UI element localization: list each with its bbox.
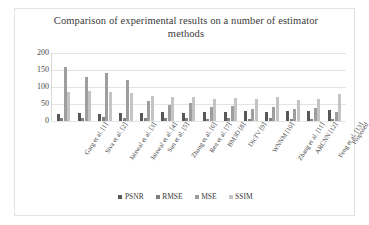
bar <box>192 97 195 121</box>
x-axis-tick-label: WNNM [10] <box>271 121 296 154</box>
bar-group <box>262 53 283 121</box>
bar <box>67 92 70 121</box>
bar-group <box>282 53 303 121</box>
bar-group <box>178 53 199 121</box>
legend-label: RMSE <box>162 193 182 201</box>
bar-group <box>136 53 157 121</box>
legend-swatch-icon <box>229 195 233 199</box>
y-axis-tick-label: 50 <box>23 100 49 108</box>
bar-group <box>157 53 178 121</box>
legend-item[interactable]: RMSE <box>156 193 183 201</box>
bar-group <box>220 53 241 121</box>
bar <box>109 92 112 121</box>
legend-item[interactable]: SSIM <box>229 193 253 201</box>
bar <box>130 93 133 121</box>
bar <box>297 100 300 121</box>
bar <box>213 99 216 121</box>
y-axis-tick-label: 150 <box>23 66 49 74</box>
bar <box>234 98 237 121</box>
bar-group <box>241 53 262 121</box>
x-axis-labels: Garg et al. [1]Siva et al. [2]Jaiswal et… <box>51 121 345 183</box>
bar-group <box>116 53 137 121</box>
legend-swatch-icon <box>118 195 122 199</box>
bar-group <box>74 53 95 121</box>
bar <box>171 97 174 121</box>
legend-swatch-icon <box>195 195 199 199</box>
legend-swatch-icon <box>156 195 160 199</box>
bar-group <box>303 53 324 121</box>
bar <box>88 91 91 121</box>
y-axis-tick-label: 100 <box>23 83 49 91</box>
legend-label: MSE <box>201 193 216 201</box>
bars-layer <box>52 53 346 121</box>
legend-label: SSIM <box>235 193 253 201</box>
bar <box>276 97 279 121</box>
bar <box>338 94 341 121</box>
y-axis-tick-label: 0 <box>23 117 49 125</box>
bar-group <box>324 53 345 121</box>
x-axis-tick-label: DicTV [9] <box>247 121 268 148</box>
bar <box>151 96 154 121</box>
y-axis: 050100150200 <box>23 53 49 121</box>
legend-label: PSNR <box>125 193 144 201</box>
bar-group <box>95 53 116 121</box>
chart-title: Comparison of experimental results on a … <box>41 15 331 40</box>
bar-group <box>199 53 220 121</box>
y-axis-tick-label: 200 <box>23 49 49 57</box>
legend-item[interactable]: MSE <box>195 193 217 201</box>
bar-group <box>53 53 74 121</box>
legend-item[interactable]: PSNR <box>118 193 143 201</box>
bar <box>255 99 258 121</box>
plot-area <box>51 53 346 121</box>
chart-card: Comparison of experimental results on a … <box>14 8 355 216</box>
chart-legend: PSNRRMSEMSESSIM <box>15 193 356 201</box>
bar <box>317 99 320 121</box>
